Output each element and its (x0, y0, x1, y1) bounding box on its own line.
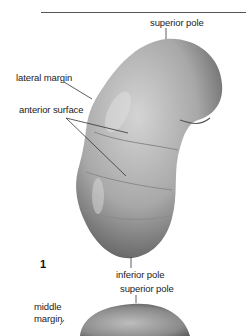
figure-number: 1 (40, 258, 46, 270)
label-lateral-margin: lateral margin (16, 72, 72, 83)
label-middle-margin-line2: margin (34, 313, 62, 324)
label-middle-margin-line1: middle (34, 301, 61, 312)
label-anterior-surface: anterior surface (19, 104, 83, 115)
organ-shape-2 (80, 304, 190, 336)
label-superior-pole: superior pole (150, 17, 204, 28)
label-superior-pole-2: superior pole (120, 283, 174, 294)
label-inferior-pole: inferior pole (116, 269, 164, 280)
